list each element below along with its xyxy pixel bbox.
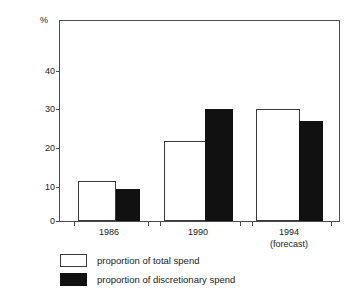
legend-swatch-discretionary: [60, 273, 87, 286]
y-tick-mark-40: [56, 71, 60, 72]
bar-1986-total: [78, 181, 116, 221]
x-tick-mark-2: [160, 222, 161, 226]
y-tick-mark-0: [56, 221, 60, 222]
bar-1986-discretionary: [116, 189, 140, 221]
x-tick-mark-4: [252, 222, 253, 226]
x-sublabel-1994-forecast: (forecast): [259, 239, 319, 250]
y-tick-label-40: 40: [37, 67, 55, 76]
y-tick-mark-30: [56, 109, 60, 110]
legend-label-discretionary: proportion of discretionary spend: [97, 273, 235, 286]
y-tick-mark-20: [56, 148, 60, 149]
x-tick-mark-3: [240, 222, 241, 226]
x-label-1990: 1990: [168, 227, 228, 238]
y-tick-mark-10: [56, 187, 60, 188]
x-label-1994: 1994: [259, 227, 319, 238]
y-tick-label-10: 10: [37, 183, 55, 192]
x-tick-mark-0: [74, 222, 75, 226]
legend-swatch-total: [60, 254, 87, 267]
x-label-1986: 1986: [79, 227, 139, 238]
x-tick-mark-5: [331, 222, 332, 226]
bar-chart-figure: % 40 30 20 10 0 1986 1990: [0, 0, 359, 307]
y-tick-label-20: 20: [37, 144, 55, 153]
bar-1994-discretionary: [299, 121, 323, 221]
y-tick-label-30: 30: [37, 105, 55, 114]
x-tick-mark-1: [148, 222, 149, 226]
y-tick-label-0: 0: [37, 217, 55, 226]
legend-label-total: proportion of total spend: [97, 254, 199, 267]
y-axis-unit-label: %: [40, 15, 48, 25]
bar-1994-total: [256, 109, 300, 221]
bar-1990-discretionary: [205, 109, 233, 221]
bar-1990-total: [164, 141, 206, 221]
